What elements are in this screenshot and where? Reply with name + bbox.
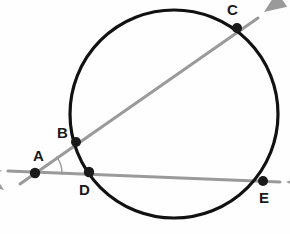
- vertex-dot-b[interactable]: [71, 137, 81, 147]
- geometry-figure: ABCDE: [0, 0, 290, 234]
- arrowhead-down-left-icon: [0, 170, 9, 197]
- secant-line-ADE: [8, 171, 280, 182]
- arrowhead-up-right-icon: [259, 0, 287, 19]
- arrowhead-left-icon: [0, 161, 2, 180]
- secant-ray-ABC: [20, 18, 258, 184]
- vertex-dot-e[interactable]: [258, 176, 268, 186]
- secant-line-ABC: [20, 18, 258, 184]
- vertex-dot-a[interactable]: [30, 168, 40, 178]
- vertex-dots-group: [30, 23, 268, 186]
- vertex-label-e: E: [259, 190, 269, 205]
- main-circle: [70, 10, 278, 218]
- vertex-label-b: B: [57, 125, 68, 140]
- vertex-dot-c[interactable]: [232, 23, 242, 33]
- arrowhead-right-icon: [286, 173, 290, 192]
- geometry-canvas: [0, 0, 290, 234]
- vertex-label-c: C: [227, 2, 238, 17]
- vertex-label-d: D: [79, 182, 90, 197]
- vertex-label-a: A: [33, 148, 44, 163]
- vertex-dot-d[interactable]: [84, 167, 94, 177]
- secant-ray-ADE: [8, 171, 280, 182]
